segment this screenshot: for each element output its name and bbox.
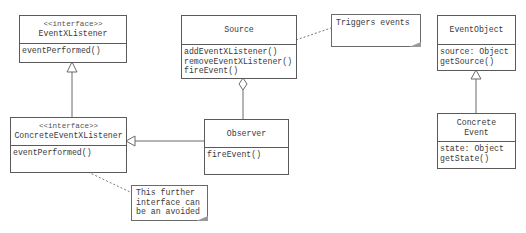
note-text-line: This further [136, 188, 203, 198]
note-further-interface: This further interface can be an avoided [131, 185, 208, 221]
stereotype-label: <<interface>> [43, 20, 102, 29]
class-member: fireEvent() [207, 150, 286, 160]
generalization-arrow-icon [471, 70, 481, 79]
generalization-arrow-icon [67, 62, 77, 72]
note-link-line [88, 172, 130, 192]
class-member: getSource() [440, 57, 513, 67]
class-observer[interactable]: Observer fireEvent() [204, 119, 289, 175]
class-name: Observer [227, 129, 266, 139]
note-text: Triggers events [336, 18, 416, 28]
class-member: eventPerformed() [13, 148, 124, 158]
class-member: removeEventXListener() [184, 57, 294, 67]
class-name-line1: Concrete [457, 118, 496, 128]
class-member: addEventXListener() [184, 47, 294, 57]
note-fold-icon [409, 42, 421, 47]
class-eventxlistener[interactable]: <<interface>> EventXListener eventPerfor… [19, 15, 127, 63]
class-name: ConcreteEventXListener [14, 131, 122, 141]
note-fold-icon [196, 216, 208, 221]
class-concreteeventxlistener[interactable]: <<interface>> ConcreteEventXListener eve… [10, 117, 127, 173]
class-source[interactable]: Source addEventXListener() removeEventXL… [181, 15, 297, 79]
class-name-line2: Event [464, 128, 489, 138]
class-member: getState() [440, 154, 513, 164]
class-member: source: Object [440, 47, 513, 57]
generalization-arrow-icon [126, 136, 135, 146]
class-name: EventObject [449, 25, 503, 35]
class-concreteevent[interactable]: Concrete Event state: Object getState() [437, 113, 516, 169]
class-member: eventPerformed() [22, 46, 124, 56]
note-link-line [296, 28, 331, 40]
class-member: state: Object [440, 144, 513, 154]
note-text-line: interface can [136, 198, 203, 208]
stereotype-label: <<interface>> [39, 122, 98, 131]
class-name: EventXListener [39, 29, 108, 39]
note-text-line: be an avoided [136, 207, 203, 217]
note-triggers-events: Triggers events [331, 14, 421, 47]
aggregation-diamond-icon [239, 78, 247, 90]
class-eventobject[interactable]: EventObject source: Object getSource() [437, 15, 516, 71]
class-name: Source [224, 25, 253, 35]
class-member: fireEvent() [184, 66, 294, 76]
